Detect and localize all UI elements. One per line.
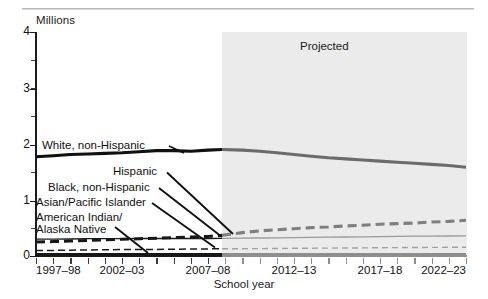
series-label-black-non-hispanic: Black, non-Hispanic: [48, 181, 150, 193]
series-label-american-indian-line1: American Indian/: [36, 211, 122, 224]
series-label-hispanic: Hispanic: [113, 165, 157, 177]
chart-figure: Millions Projected 4 3 2 1 0: [0, 0, 488, 299]
series-label-asian-pacific-islander: Asian/Pacific Islander: [36, 196, 146, 208]
series-asian-pacific-islander-historical: [36, 249, 222, 251]
series-label-white-non-hispanic: White, non-Hispanic: [42, 139, 145, 151]
series-asian-pacific-islander-projected: [222, 247, 466, 249]
series-label-american-indian-line2: Alaska Native: [36, 223, 106, 236]
leader-line-hispanic: [167, 173, 233, 235]
series-white-non-hispanic-projected: [222, 150, 466, 168]
series-hispanic-projected: [222, 220, 466, 235]
series-black-non-hispanic-projected: [222, 236, 466, 239]
